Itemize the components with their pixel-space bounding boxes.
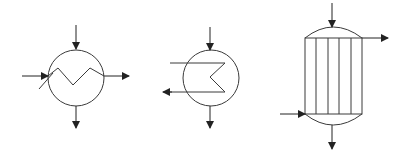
heat-exchanger-hairpin [163, 27, 239, 128]
exchanger-shell [48, 50, 104, 106]
vessel-bottom-dome [305, 114, 362, 125]
vessel-shell [305, 38, 362, 114]
heat-exchanger-zigzag [22, 25, 129, 128]
control-slash [39, 73, 53, 89]
diagram-canvas: Heat exchanger (coil) Heat exchanger (U-… [0, 0, 408, 157]
vessel-top-dome [305, 27, 362, 38]
shell-and-tube-vessel [280, 3, 388, 149]
hairpin-tube [170, 63, 225, 92]
coil-zigzag [48, 68, 104, 85]
